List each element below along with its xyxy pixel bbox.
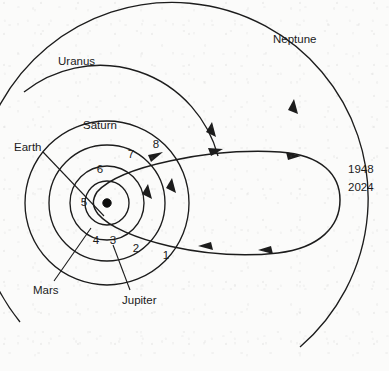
- sun-marker: [103, 199, 111, 207]
- crossing-label-6: 6: [97, 163, 103, 175]
- crossing-label-8: 8: [153, 138, 159, 150]
- crossing-label-2: 2: [133, 242, 139, 254]
- crossing-label-1: 1: [163, 249, 169, 261]
- arrowhead-saturn: [166, 178, 176, 193]
- crossing-label-4: 4: [93, 234, 100, 246]
- arrowhead-neptune: [288, 99, 298, 114]
- crossing-label-3: 3: [110, 234, 116, 246]
- label-neptune: Neptune: [273, 33, 316, 45]
- orbit-diagram-svg: Uranus Neptune Saturn Earth Mars Jupiter…: [0, 0, 389, 371]
- arrowhead-comet-upper-inner: [148, 152, 163, 162]
- label-earth: Earth: [14, 141, 42, 153]
- arrowhead-comet-lower-inner: [198, 242, 213, 250]
- comet-orbit-diagram: Uranus Neptune Saturn Earth Mars Jupiter…: [0, 0, 389, 371]
- orbit-uranus: [24, 65, 218, 156]
- label-saturn: Saturn: [83, 119, 117, 131]
- crossing-label-7: 7: [128, 148, 134, 160]
- arrowhead-comet-lower-outer: [258, 246, 273, 254]
- comet-orbit-path: [93, 151, 340, 254]
- crossing-label-5: 5: [81, 196, 87, 208]
- label-mars: Mars: [33, 284, 59, 296]
- label-uranus: Uranus: [58, 55, 95, 67]
- label-jupiter: Jupiter: [122, 294, 157, 306]
- label-year-1948: 1948: [348, 163, 374, 175]
- label-year-2024: 2024: [348, 181, 374, 193]
- arrowhead-uranus: [206, 122, 216, 137]
